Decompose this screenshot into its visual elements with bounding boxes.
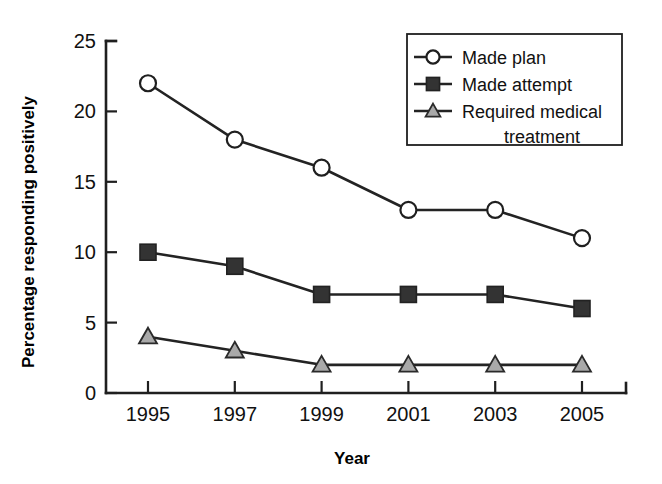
data-point-marker bbox=[487, 202, 503, 218]
series-line bbox=[148, 252, 582, 308]
y-tick-label: 20 bbox=[74, 100, 96, 122]
x-axis-ticks bbox=[148, 381, 582, 393]
chart-legend: Made planMade attemptRequired medicaltre… bbox=[407, 34, 622, 147]
y-axis-ticks bbox=[106, 41, 117, 393]
x-tick-label: 1995 bbox=[126, 403, 171, 425]
y-axis-tick-labels: 0510152025 bbox=[74, 30, 96, 404]
data-point-marker bbox=[574, 301, 590, 317]
data-point-marker bbox=[140, 244, 156, 260]
series-2 bbox=[139, 328, 591, 372]
data-point-marker bbox=[227, 258, 243, 274]
x-tick-label: 2003 bbox=[473, 403, 518, 425]
y-axis-title: Percentage responding positively bbox=[19, 95, 38, 368]
y-tick-label: 10 bbox=[74, 241, 96, 263]
x-axis-title: Year bbox=[334, 449, 370, 468]
x-tick-label: 2005 bbox=[560, 403, 605, 425]
line-chart: Percentage responding positively 0510152… bbox=[0, 0, 662, 484]
data-point-marker bbox=[400, 286, 416, 302]
x-tick-label: 2001 bbox=[386, 403, 431, 425]
series-1 bbox=[140, 244, 590, 316]
legend-label: Required medical bbox=[462, 102, 602, 122]
y-tick-label: 0 bbox=[85, 382, 96, 404]
data-point-marker bbox=[426, 77, 439, 90]
data-point-marker bbox=[314, 160, 330, 176]
series-line bbox=[148, 337, 582, 365]
y-tick-label: 25 bbox=[74, 30, 96, 52]
data-point-marker bbox=[314, 286, 330, 302]
legend-label: treatment bbox=[504, 127, 580, 147]
chart-container: Percentage responding positively 0510152… bbox=[0, 0, 662, 484]
data-point-marker bbox=[139, 328, 157, 344]
x-tick-label: 1999 bbox=[299, 403, 344, 425]
data-point-marker bbox=[487, 286, 503, 302]
x-tick-label: 1997 bbox=[213, 403, 258, 425]
y-tick-label: 5 bbox=[85, 312, 96, 334]
data-point-marker bbox=[227, 132, 243, 148]
legend-label: Made attempt bbox=[462, 75, 572, 95]
data-point-marker bbox=[574, 230, 590, 246]
data-point-marker bbox=[140, 75, 156, 91]
legend-label: Made plan bbox=[462, 48, 546, 68]
x-axis-tick-labels: 199519971999200120032005 bbox=[126, 403, 605, 425]
data-point-marker bbox=[400, 202, 416, 218]
y-tick-label: 15 bbox=[74, 171, 96, 193]
data-point-marker bbox=[426, 50, 439, 63]
legend-item-3: treatment bbox=[504, 127, 580, 147]
